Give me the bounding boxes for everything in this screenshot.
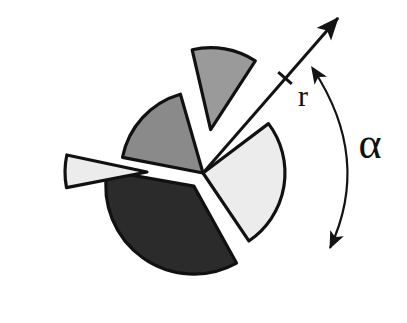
pie-sector-figure: r α [0, 0, 407, 323]
figure-canvas: r α [0, 0, 407, 323]
gray-exploded-bottom-right-wedge [192, 48, 255, 130]
gray-bottom-left-sector [123, 94, 203, 173]
pie-slices-group [65, 48, 285, 274]
angle-arc [313, 69, 347, 248]
radius-label: r [298, 79, 308, 112]
angle-label: α [358, 119, 381, 168]
